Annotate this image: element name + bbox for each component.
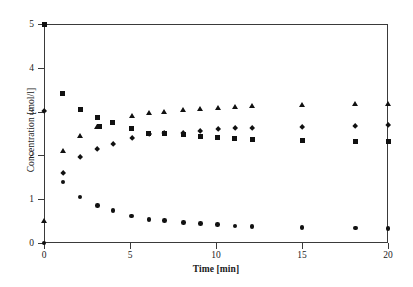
x-tick-mark [302, 243, 303, 249]
x-axis-title: Time [min] [44, 264, 388, 274]
y-tick-mark [38, 155, 44, 156]
y-tick-mark [38, 199, 44, 200]
x-tick-label: 15 [282, 250, 322, 261]
x-tick-mark [388, 243, 389, 249]
x-tick-mark [44, 243, 45, 249]
plot-area [44, 24, 388, 243]
y-tick-mark [38, 68, 44, 69]
x-tick-label: 20 [368, 250, 408, 261]
x-tick-mark [216, 243, 217, 249]
y-tick-label: 5 [0, 19, 34, 29]
x-tick-label: 0 [24, 250, 64, 261]
y-tick-mark [38, 112, 44, 113]
y-tick-mark [38, 24, 44, 25]
y-tick-label: 0 [0, 238, 34, 248]
x-tick-label: 10 [196, 250, 236, 261]
x-tick-mark [130, 243, 131, 249]
chart-figure: 012345 05101520 Concentration [mol/l] Ti… [0, 0, 413, 287]
x-tick-label: 5 [110, 250, 150, 261]
y-axis-title: Concentration [mol/l] [26, 50, 36, 210]
